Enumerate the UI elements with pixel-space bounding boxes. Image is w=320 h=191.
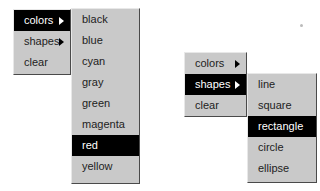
menu-item-shapes[interactable]: shapes (14, 31, 70, 52)
menu-item-label: circle (258, 141, 284, 153)
menu-item-label: shapes (195, 78, 230, 90)
submenu-item-cyan[interactable]: cyan (72, 51, 139, 72)
submenu-item-magenta[interactable]: magenta (72, 114, 139, 135)
menu-item-label: colors (195, 57, 224, 69)
menu-item-label: rectangle (258, 120, 303, 132)
submenu-item-green[interactable]: green (72, 93, 139, 114)
submenu-arrow-icon (59, 38, 64, 46)
submenu-item-square[interactable]: square (248, 95, 316, 116)
submenu-item-circle[interactable]: circle (248, 137, 316, 158)
menu-item-label: clear (24, 56, 48, 68)
submenu-item-blue[interactable]: blue (72, 30, 139, 51)
submenu-item-ellipse[interactable]: ellipse (248, 158, 316, 179)
menu-item-label: gray (82, 76, 103, 88)
menu-item-shapes[interactable]: shapes (185, 74, 246, 95)
left-main-menu: colors shapes clear (13, 9, 71, 75)
menu-item-label: black (82, 13, 108, 25)
menu-item-label: green (82, 97, 110, 109)
menu-item-label: clear (195, 99, 219, 111)
right-main-menu: colors shapes clear (184, 52, 247, 117)
submenu-item-red[interactable]: red (72, 135, 139, 156)
menu-item-label: yellow (82, 160, 113, 172)
submenu-item-black[interactable]: black (72, 9, 139, 30)
speck-artifact (300, 24, 303, 27)
menu-item-clear[interactable]: clear (185, 95, 246, 116)
right-shapes-submenu: line square rectangle circle ellipse (247, 73, 317, 183)
submenu-item-rectangle[interactable]: rectangle (248, 116, 316, 137)
menu-item-label: ellipse (258, 162, 289, 174)
submenu-item-gray[interactable]: gray (72, 72, 139, 93)
left-colors-submenu: black blue cyan gray green magenta red y… (71, 8, 140, 184)
submenu-arrow-icon (235, 60, 240, 68)
menu-item-colors[interactable]: colors (14, 10, 70, 31)
menu-item-label: line (258, 78, 275, 90)
menu-item-label: square (258, 99, 292, 111)
menu-item-colors[interactable]: colors (185, 53, 246, 74)
menu-item-clear[interactable]: clear (14, 52, 70, 73)
menu-item-label: magenta (82, 118, 125, 130)
submenu-arrow-icon (235, 81, 240, 89)
menu-item-label: colors (24, 14, 53, 26)
submenu-item-yellow[interactable]: yellow (72, 156, 139, 177)
menu-item-label: cyan (82, 55, 105, 67)
menu-item-label: red (82, 139, 98, 151)
submenu-arrow-icon (59, 17, 64, 25)
menu-item-label: shapes (24, 35, 59, 47)
submenu-item-line[interactable]: line (248, 74, 316, 95)
menu-item-label: blue (82, 34, 103, 46)
